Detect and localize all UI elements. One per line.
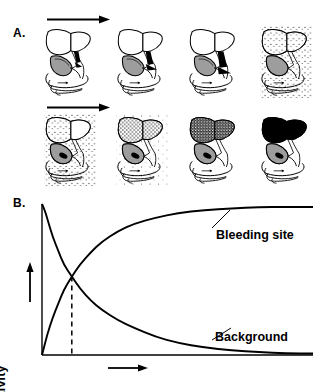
panel-a-frame (108, 26, 174, 98)
panel-a-frame (252, 114, 318, 186)
y-axis-direction-arrow-icon (26, 262, 33, 302)
y-axis-title: Activity (0, 365, 8, 392)
panel-a-frame (180, 114, 246, 186)
x-axis-direction-arrow-icon (108, 364, 148, 371)
figure-container: A. (0, 0, 322, 392)
background-annotation: Background (215, 330, 288, 344)
panel-a-frame (180, 26, 246, 98)
time-arrow-right-icon (46, 14, 112, 25)
panel-a-row-1 (36, 14, 322, 98)
panel-a-row-2 (36, 102, 322, 186)
panel-a-frame (36, 26, 102, 98)
activity-vs-time-chart: Activity Time (0, 182, 322, 392)
panel-a-frame (252, 26, 318, 98)
bleeding-site-annotation: Bleeding site (216, 228, 294, 242)
panel-a-frame (108, 114, 174, 186)
chart-plot-area (0, 182, 322, 392)
time-arrow-right-icon (46, 102, 112, 113)
panel-a-frame (36, 114, 102, 186)
bleeding-site-leader-line (212, 210, 230, 228)
panel-a-label: A. (13, 26, 26, 40)
